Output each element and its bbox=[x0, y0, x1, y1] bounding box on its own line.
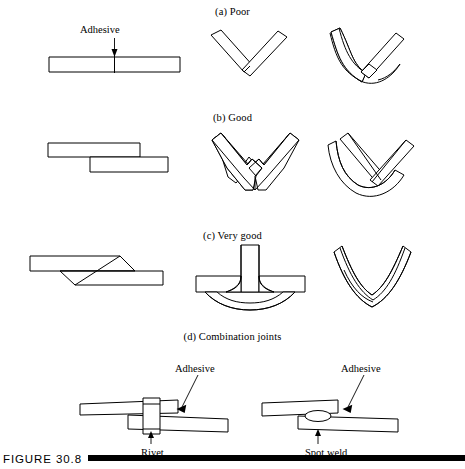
diagram-combination-rivet-joint bbox=[80, 375, 228, 444]
diagram-v-joint-straight-bars bbox=[211, 30, 287, 76]
diagram-butt-joint-flat-strip bbox=[49, 38, 180, 73]
figure-rule bbox=[88, 455, 465, 461]
diagram-scarf-joint-tapered bbox=[30, 256, 163, 285]
diagram-v-joint-bent-bar-overlap bbox=[330, 28, 404, 83]
diagram-curved-v-scarf bbox=[334, 246, 411, 307]
diagram-lap-joint-offset bbox=[48, 143, 168, 172]
figure-caption: FIGURE 30.8 bbox=[3, 453, 82, 465]
joint-diagrams-artwork bbox=[0, 0, 465, 469]
diagram-v-bracket-notched-seats bbox=[212, 133, 299, 190]
diagram-t-joint-filleted bbox=[196, 245, 305, 310]
figure-container: (a) Poor (b) Good (c) Very good (d) Comb… bbox=[0, 0, 465, 469]
diagram-v-channel-cradle bbox=[328, 133, 414, 196]
diagram-combination-spotweld-joint bbox=[262, 375, 398, 444]
